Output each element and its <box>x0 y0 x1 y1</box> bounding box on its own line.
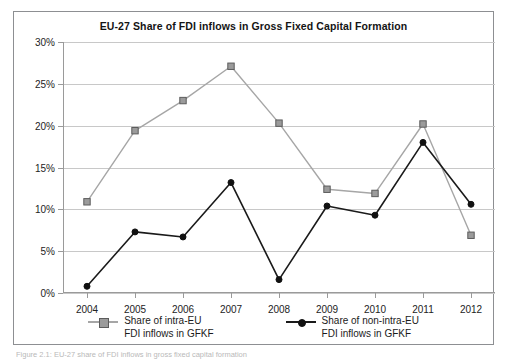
x-tick-mark <box>231 293 232 298</box>
y-axis-tick-label: 10% <box>35 204 55 215</box>
chart-legend: Share of intra-EU FDI inflows in GFKF Sh… <box>14 315 493 340</box>
series-layer <box>63 42 495 293</box>
figure-frame: EU-27 Share of FDI inflows in Gross Fixe… <box>13 11 494 345</box>
x-axis-tick-label: 2007 <box>220 304 242 315</box>
legend-label-non-intra-eu-line2: FDI inflows in GFKF <box>322 328 411 339</box>
legend-marker-circle-icon <box>298 319 306 327</box>
x-axis-tick-label: 2011 <box>412 304 434 315</box>
data-point-marker-square <box>276 120 282 126</box>
legend-entry-intra-eu: Share of intra-EU FDI inflows in GFKF <box>88 315 213 340</box>
data-point-marker-circle <box>84 283 90 289</box>
x-axis-tick-label: 2012 <box>460 304 482 315</box>
x-tick-mark <box>135 293 136 298</box>
y-axis-tick-label: 0% <box>41 288 55 299</box>
x-axis-tick-label: 2006 <box>172 304 194 315</box>
x-tick-mark <box>183 293 184 298</box>
data-point-marker-circle <box>324 203 330 209</box>
x-tick-mark <box>375 293 376 298</box>
y-axis-tick-label: 5% <box>41 246 55 257</box>
data-point-marker-square <box>372 190 378 196</box>
series-line <box>87 66 471 235</box>
x-axis-tick-label: 2008 <box>268 304 290 315</box>
y-axis-tick-label: 20% <box>35 120 55 131</box>
legend-label-intra-eu: Share of intra-EU FDI inflows in GFKF <box>124 315 213 340</box>
series-line <box>87 142 471 286</box>
data-point-marker-circle <box>276 277 282 283</box>
legend-label-non-intra-eu: Share of non-intra-EU FDI inflows in GFK… <box>322 315 419 340</box>
data-point-marker-circle <box>420 139 426 145</box>
x-tick-mark <box>87 293 88 298</box>
data-point-marker-circle <box>372 212 378 218</box>
legend-entry-non-intra-eu: Share of non-intra-EU FDI inflows in GFK… <box>286 315 419 340</box>
y-axis-tick-label: 25% <box>35 78 55 89</box>
data-point-marker-square <box>132 127 138 133</box>
data-point-marker-square <box>84 199 90 205</box>
legend-label-intra-eu-line2: FDI inflows in GFKF <box>124 328 213 339</box>
x-tick-mark <box>423 293 424 298</box>
plot-area: 0%5%10%15%20%25%30%200420052006200720082… <box>63 42 495 293</box>
x-axis-tick-label: 2005 <box>124 304 146 315</box>
x-axis-tick-label: 2009 <box>316 304 338 315</box>
data-point-marker-circle <box>132 229 138 235</box>
legend-label-non-intra-eu-line1: Share of non-intra-EU <box>322 315 419 326</box>
data-point-marker-square <box>324 186 330 192</box>
x-axis-tick-label: 2004 <box>76 304 98 315</box>
data-point-marker-circle <box>180 234 186 240</box>
data-point-marker-circle <box>228 180 234 186</box>
y-tick-mark <box>58 293 63 294</box>
x-tick-mark <box>279 293 280 298</box>
y-axis-tick-label: 15% <box>35 162 55 173</box>
figure-caption: Figure 2.1: EU-27 share of FDI inflows i… <box>16 350 486 361</box>
data-point-marker-square <box>420 121 426 127</box>
legend-symbol-diamond-icon <box>286 316 316 328</box>
data-point-marker-circle <box>468 201 474 207</box>
y-axis-tick-label: 30% <box>35 37 55 48</box>
legend-symbol-square-icon <box>88 316 118 328</box>
chart-title: EU-27 Share of FDI inflows in Gross Fixe… <box>14 20 493 32</box>
x-tick-mark <box>327 293 328 298</box>
x-axis-tick-label: 2010 <box>364 304 386 315</box>
legend-marker-square-icon <box>99 318 109 328</box>
data-point-marker-square <box>180 97 186 103</box>
data-point-marker-square <box>228 63 234 69</box>
x-tick-mark <box>471 293 472 298</box>
legend-label-intra-eu-line1: Share of intra-EU <box>124 315 201 326</box>
data-point-marker-square <box>468 232 474 238</box>
